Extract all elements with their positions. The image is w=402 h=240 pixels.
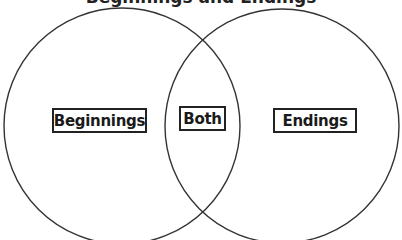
venn-diagram: Beginnings and Endings Beginnings Both E… <box>0 0 402 240</box>
beginnings-label: Beginnings <box>52 108 147 133</box>
endings-label: Endings <box>273 108 357 133</box>
both-label: Both <box>179 106 226 131</box>
